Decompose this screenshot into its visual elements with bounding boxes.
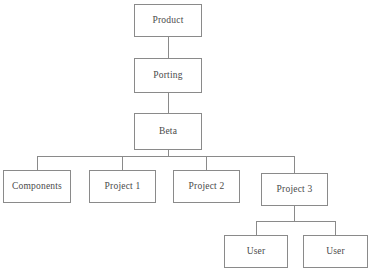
node-label-product: Product	[153, 16, 184, 26]
node-label-user-1: User	[247, 247, 266, 257]
node-beta[interactable]: Beta	[134, 113, 202, 150]
node-product[interactable]: Product	[134, 4, 202, 37]
node-project-3[interactable]: Project 3	[261, 173, 328, 206]
node-label-components: Components	[12, 182, 62, 192]
node-label-porting: Porting	[153, 71, 182, 81]
node-label-project-3: Project 3	[277, 185, 313, 195]
node-label-project-2: Project 2	[189, 182, 225, 192]
node-user-1[interactable]: User	[224, 235, 288, 268]
node-project-1[interactable]: Project 1	[89, 170, 156, 203]
hierarchy-diagram: Product Porting Beta Components Project …	[0, 0, 379, 274]
node-label-beta: Beta	[159, 127, 177, 137]
node-project-2[interactable]: Project 2	[173, 170, 240, 203]
node-label-user-2: User	[326, 247, 345, 257]
node-components[interactable]: Components	[3, 170, 71, 203]
node-porting[interactable]: Porting	[134, 58, 202, 93]
node-user-2[interactable]: User	[303, 235, 368, 268]
node-label-project-1: Project 1	[105, 182, 141, 192]
